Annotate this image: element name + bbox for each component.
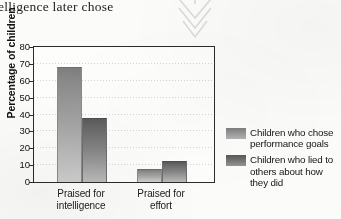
x-axis-ticklabel-line1: Praised for [116, 188, 206, 200]
y-axis-ticklabel: 70 [10, 59, 30, 69]
plot-area [33, 46, 215, 183]
legend-swatch-series-1 [226, 155, 246, 166]
y-axis-tickmark [29, 47, 33, 48]
legend-item: Children who lied to others about how th… [226, 154, 341, 188]
y-axis-tickmark [29, 165, 33, 166]
x-axis-ticklabel: Praised forintelligence [36, 188, 126, 211]
figure-page: elligence later chose Percentage of chil… [0, 0, 341, 219]
legend-label-series-1: Children who lied to others about how th… [250, 154, 341, 188]
y-axis-ticklabel: 10 [10, 160, 30, 170]
bar-0-1 [137, 169, 162, 183]
y-axis-ticklabel: 0 [10, 177, 30, 187]
y-axis-ticklabel: 60 [10, 76, 30, 86]
y-axis-tickmark [29, 148, 33, 149]
legend-item: Children who chose performance goals [226, 127, 341, 149]
y-axis-tickmark [29, 131, 33, 132]
bar-chart: Percentage of children 01020304050607080… [0, 0, 341, 219]
x-axis-ticklabel-line2: intelligence [36, 200, 126, 212]
y-axis-ticklabel: 80 [10, 42, 30, 52]
y-axis-ticklabels: 01020304050607080 [10, 41, 30, 183]
x-axis-ticklabel-line1: Praised for [36, 188, 126, 200]
y-axis-ticklabel: 40 [10, 110, 30, 120]
bar-1-0 [82, 118, 107, 182]
legend-swatch-series-0 [226, 128, 246, 139]
gridline [34, 63, 214, 64]
y-axis-tickmark [29, 182, 33, 183]
y-axis-tickmark [29, 98, 33, 99]
chart-legend: Children who chose performance goals Chi… [226, 127, 341, 193]
legend-label-series-0: Children who chose performance goals [250, 127, 341, 149]
y-axis-ticklabel: 30 [10, 126, 30, 136]
bar-0-0 [57, 67, 82, 182]
y-axis-tickmark [29, 64, 33, 65]
bar-1-1 [162, 161, 187, 182]
y-axis-ticklabel: 50 [10, 93, 30, 103]
y-axis-tickmark [29, 115, 33, 116]
x-axis-ticklabel: Praised foreffort [116, 188, 206, 211]
x-axis-ticklabel-line2: effort [116, 200, 206, 212]
y-axis-tickmark [29, 81, 33, 82]
y-axis-ticklabel: 20 [10, 143, 30, 153]
